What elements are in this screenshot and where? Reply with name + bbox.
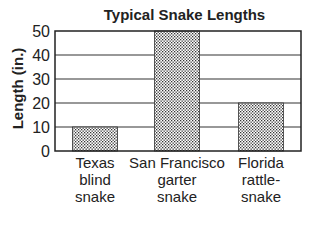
bars: [73, 31, 284, 151]
bar: [155, 31, 200, 151]
x-tick-label: Floridarattle-snake: [211, 154, 309, 205]
bar: [239, 103, 284, 151]
bar: [73, 127, 118, 151]
